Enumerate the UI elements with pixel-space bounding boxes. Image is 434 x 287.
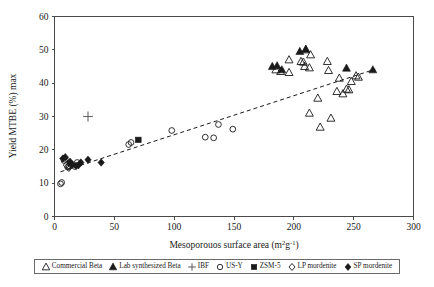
legend-item-label: IBF bbox=[198, 263, 209, 270]
series-lab-synthesized-beta bbox=[268, 45, 376, 73]
x-tick-label: 150 bbox=[227, 222, 242, 232]
data-point bbox=[285, 56, 293, 63]
scatter-plot: 0102030405060 050100150200250300 Yield M… bbox=[0, 0, 434, 287]
series-ibf bbox=[83, 112, 93, 122]
data-point bbox=[59, 180, 65, 186]
data-point bbox=[285, 68, 293, 75]
legend-item[interactable]: US-Y bbox=[216, 263, 243, 271]
data-point bbox=[83, 112, 93, 122]
series-us-y bbox=[58, 122, 236, 187]
legend-filled-triangle-icon bbox=[109, 263, 117, 271]
y-tick-label: 40 bbox=[39, 78, 49, 88]
x-tick-label: 50 bbox=[110, 222, 120, 232]
data-point bbox=[230, 126, 236, 132]
data-point bbox=[273, 62, 281, 69]
y-tick-label: 30 bbox=[39, 112, 49, 122]
legend-item-label: US-Y bbox=[226, 263, 243, 270]
x-axis-title-label: Mesoporouos surface area (m2g-1) bbox=[169, 239, 298, 251]
marker-filled-diamond bbox=[345, 263, 351, 270]
legend-item[interactable]: LP mordenite bbox=[288, 263, 337, 271]
marker-open-circle bbox=[217, 264, 222, 269]
legend-open-circle-icon bbox=[216, 263, 224, 271]
figure-container: 0102030405060 050100150200250300 Yield M… bbox=[0, 0, 434, 287]
data-point bbox=[325, 66, 333, 73]
plot-frame bbox=[55, 17, 414, 217]
data-point bbox=[216, 122, 222, 128]
x-tick-label: 200 bbox=[287, 222, 302, 232]
data-point bbox=[316, 123, 324, 130]
y-tick-label: 10 bbox=[39, 178, 49, 188]
data-point bbox=[343, 64, 351, 71]
legend-item-label: LP mordenite bbox=[298, 263, 337, 270]
data-point bbox=[98, 159, 104, 166]
legend-item[interactable]: Commercial Beta bbox=[42, 263, 103, 271]
data-points-layer bbox=[58, 45, 377, 187]
data-point bbox=[333, 87, 341, 94]
data-point bbox=[369, 66, 377, 73]
marker-open-diamond bbox=[289, 263, 295, 270]
series-zsm-5 bbox=[135, 137, 141, 142]
x-tick-label: 250 bbox=[347, 222, 362, 232]
y-tick-label: 60 bbox=[39, 12, 49, 22]
data-point bbox=[302, 45, 310, 52]
marker-plus bbox=[188, 263, 196, 271]
trend-line-segment bbox=[60, 69, 375, 172]
legend-open-diamond-icon bbox=[288, 263, 296, 271]
y-tick-label: 50 bbox=[39, 45, 49, 55]
legend-plus-icon bbox=[188, 263, 196, 271]
marker-filled-square bbox=[251, 264, 256, 269]
x-tick-label: 300 bbox=[406, 222, 421, 232]
legend-item[interactable]: Lab synthesized Beta bbox=[109, 263, 180, 271]
data-point bbox=[327, 114, 335, 121]
data-point bbox=[323, 57, 331, 64]
legend-open-triangle-icon bbox=[42, 263, 50, 271]
legend-item-label: Lab synthesized Beta bbox=[119, 263, 180, 270]
data-point bbox=[211, 135, 217, 141]
x-tick-label: 0 bbox=[52, 222, 57, 232]
legend-item-label: SP mordenite bbox=[354, 263, 393, 270]
data-point bbox=[169, 128, 175, 134]
x-tick-label: 100 bbox=[167, 222, 182, 232]
legend-filled-square-icon bbox=[250, 263, 258, 271]
marker-open-triangle bbox=[42, 263, 49, 270]
data-point bbox=[135, 137, 141, 142]
marker-filled-triangle bbox=[110, 263, 117, 270]
data-point bbox=[305, 109, 313, 116]
data-point bbox=[202, 134, 208, 140]
legend-item-label: ZSM-5 bbox=[260, 263, 281, 270]
legend-item-label: Commercial Beta bbox=[52, 263, 103, 270]
x-axis-title: Mesoporouos surface area (m2g-1) bbox=[169, 239, 298, 251]
legend-item[interactable]: IBF bbox=[188, 263, 209, 271]
series-commercial-beta bbox=[272, 46, 363, 131]
trend-line bbox=[60, 69, 375, 172]
y-axis-title-label: Yield MTBE (%) max bbox=[8, 73, 19, 158]
legend: Commercial BetaLab synthesized BetaIBFUS… bbox=[34, 259, 400, 274]
legend-filled-diamond-icon bbox=[344, 263, 352, 271]
data-point bbox=[314, 94, 322, 101]
legend-item[interactable]: ZSM-5 bbox=[250, 263, 281, 271]
x-axis-ticks: 050100150200250300 bbox=[52, 217, 421, 232]
legend-item[interactable]: SP mordenite bbox=[344, 263, 393, 271]
y-axis-title: Yield MTBE (%) max bbox=[8, 73, 19, 158]
y-tick-label: 20 bbox=[39, 145, 49, 155]
y-tick-label: 0 bbox=[44, 212, 49, 222]
y-axis-ticks: 0102030405060 bbox=[39, 12, 55, 222]
